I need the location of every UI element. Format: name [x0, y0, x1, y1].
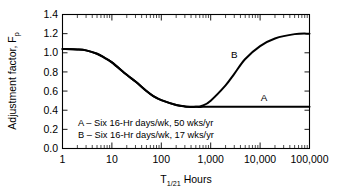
y-tick-label: 1.0: [43, 46, 58, 58]
legend-entry-a: A – Six 16-Hr days/wk, 50 wks/yr: [78, 118, 213, 128]
chart-canvas: 0.00.20.40.60.81.01.21.4 1101001,00010,0…: [0, 0, 338, 193]
chart-figure: 0.00.20.40.60.81.01.21.4 1101001,00010,0…: [0, 0, 338, 193]
y-tick-label: 0.2: [43, 123, 58, 135]
y-tick-label: 0.8: [43, 66, 58, 78]
legend-entry-b: B – Six 16-Hr days/wk, 17 wks/yr: [78, 130, 214, 140]
curve-label-b: B: [231, 49, 238, 60]
y-tick-label: 0.4: [43, 104, 58, 116]
x-tick-label: 10,000: [244, 153, 276, 165]
curve-label-a: A: [261, 92, 268, 103]
y-tick-label: 1.2: [43, 27, 58, 39]
x-tick-label: 100: [153, 153, 171, 165]
y-tick-label: 0.6: [43, 85, 58, 97]
x-tick-label: 100,000: [291, 153, 329, 165]
y-tick-label: 0.0: [43, 142, 58, 154]
y-tick-label: 1.4: [43, 8, 58, 20]
x-tick-label: 1,000: [198, 153, 224, 165]
x-tick-label: 10: [106, 153, 118, 165]
x-tick-label: 1: [60, 153, 66, 165]
